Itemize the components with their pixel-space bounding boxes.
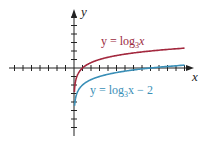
legend-label-log3x: y = log3x [101,34,145,50]
y-axis-label: y [79,4,87,19]
log-graph: x y y = log3x y = log3x − 2 [0,0,206,142]
x-axis-label: x [191,69,198,84]
y-axis [71,9,77,136]
legend-label-log3x-minus-2: y = log3x − 2 [90,83,153,99]
